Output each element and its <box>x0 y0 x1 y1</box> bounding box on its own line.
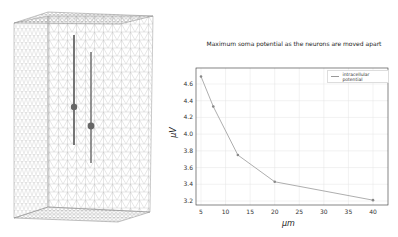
grid-lines <box>196 68 388 205</box>
line-chart: 5101520253035403.23.43.63.84.04.24.44.6 <box>170 0 398 237</box>
data-point <box>212 105 215 108</box>
y-tick-label: 3.4 <box>183 180 193 187</box>
y-tick-label: 4.0 <box>183 130 193 137</box>
legend-line-swatch <box>331 76 339 77</box>
data-point <box>200 75 203 78</box>
axis-ticks: 5101520253035403.23.43.63.84.04.24.44.6 <box>183 80 377 215</box>
x-tick-label: 20 <box>271 208 279 215</box>
x-tick-label: 5 <box>199 208 203 215</box>
legend-label: intracellular potential <box>342 72 388 82</box>
mesh-front-face <box>48 16 153 212</box>
left-neuron-soma <box>71 104 77 110</box>
y-tick-label: 3.2 <box>183 197 193 204</box>
x-tick-label: 10 <box>222 208 230 215</box>
mesh-side-face <box>14 16 48 218</box>
x-tick-label: 40 <box>369 208 377 215</box>
y-tick-label: 3.6 <box>183 164 193 171</box>
right-neuron-soma <box>88 123 95 130</box>
x-tick-label: 15 <box>246 208 254 215</box>
y-tick-label: 4.4 <box>183 97 193 104</box>
x-tick-label: 30 <box>320 208 328 215</box>
y-axis-label: μV <box>169 127 178 138</box>
data-point <box>237 154 240 157</box>
x-tick-label: 25 <box>295 208 303 215</box>
x-tick-label: 35 <box>345 208 353 215</box>
series-line-intracellular <box>201 76 373 200</box>
mesh-visualization <box>0 0 170 237</box>
y-tick-label: 4.6 <box>183 80 193 87</box>
data-point <box>273 180 276 183</box>
data-point <box>372 199 375 202</box>
y-tick-label: 3.8 <box>183 147 193 154</box>
y-tick-label: 4.2 <box>183 113 193 120</box>
x-axis-label: μm <box>282 219 295 228</box>
series-markers <box>200 75 375 201</box>
chart-legend: intracellular potential <box>327 70 389 83</box>
